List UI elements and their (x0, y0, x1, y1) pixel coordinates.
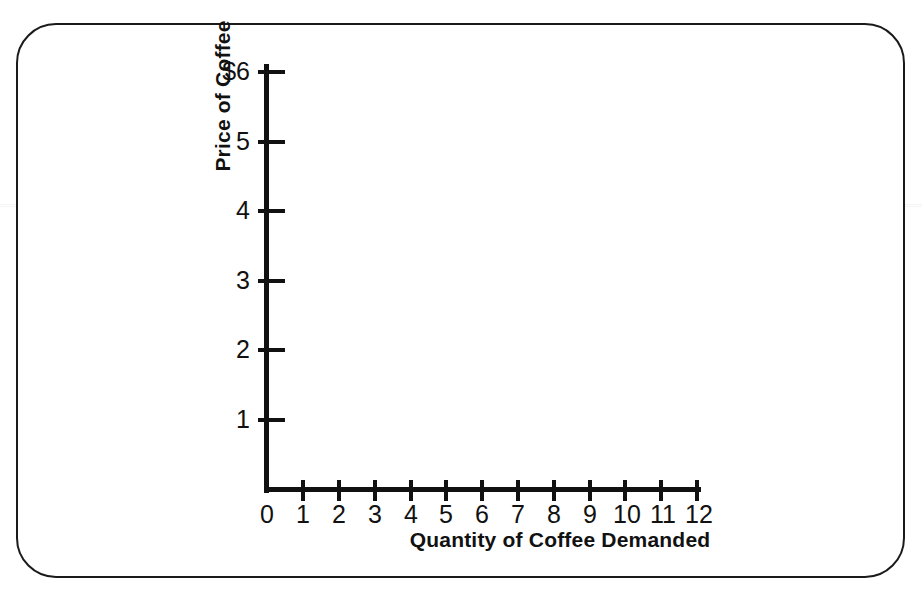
y-axis-tick-1 (258, 418, 285, 422)
x-axis-label-0: 0 (247, 502, 287, 527)
y-axis-title: Price of Coffee (210, 6, 236, 186)
y-axis-label-4: 4 (190, 198, 250, 223)
y-axis-tick-6 (258, 70, 285, 74)
y-axis-tick-5 (258, 140, 285, 144)
x-axis-tick-6 (480, 480, 484, 501)
x-axis-tick-7 (516, 480, 520, 501)
x-axis-tick-4 (409, 480, 413, 501)
x-axis-tick-5 (444, 480, 448, 501)
y-axis-tick-2 (258, 348, 285, 352)
x-axis-label-5: 5 (426, 502, 466, 527)
x-axis-label-1: 1 (283, 502, 323, 527)
x-axis-label-2: 2 (319, 502, 359, 527)
x-axis-label-11: 11 (643, 502, 683, 527)
x-axis-tick-8 (552, 480, 556, 501)
chart-plot-area: $6 5 4 3 2 1 0 1 2 (0, 0, 922, 601)
y-axis-tick-4 (258, 209, 285, 213)
x-axis-tick-11 (659, 480, 663, 501)
x-axis-label-7: 7 (498, 502, 538, 527)
x-axis-label-8: 8 (534, 502, 574, 527)
chart-screenshot: $6 5 4 3 2 1 0 1 2 (0, 0, 922, 601)
y-axis-tick-3 (258, 279, 285, 283)
y-axis-label-2: 2 (190, 337, 250, 362)
x-axis-title: Quantity of Coffee Demanded (360, 527, 760, 553)
y-axis-label-4-wrap: 4 (190, 198, 250, 223)
x-axis-tick-12 (695, 480, 699, 501)
x-axis-label-3: 3 (355, 502, 395, 527)
y-axis-label-3: 3 (190, 268, 250, 293)
y-axis-label-3-wrap: 3 (190, 268, 250, 293)
x-axis-label-9: 9 (570, 502, 610, 527)
x-axis-tick-3 (373, 480, 377, 501)
x-axis-label-4: 4 (391, 502, 431, 527)
x-axis-label-6: 6 (462, 502, 502, 527)
x-axis-tick-9 (588, 480, 592, 501)
x-axis-tick-2 (337, 480, 341, 501)
y-axis-label-1: 1 (190, 407, 250, 432)
y-axis-label-2-wrap: 2 (190, 337, 250, 362)
x-axis-label-10: 10 (607, 502, 647, 527)
x-axis-label-12: 12 (679, 502, 719, 527)
x-axis-tick-1 (301, 480, 305, 501)
x-axis-tick-10 (623, 480, 627, 501)
y-axis-label-1-wrap: 1 (190, 407, 250, 432)
